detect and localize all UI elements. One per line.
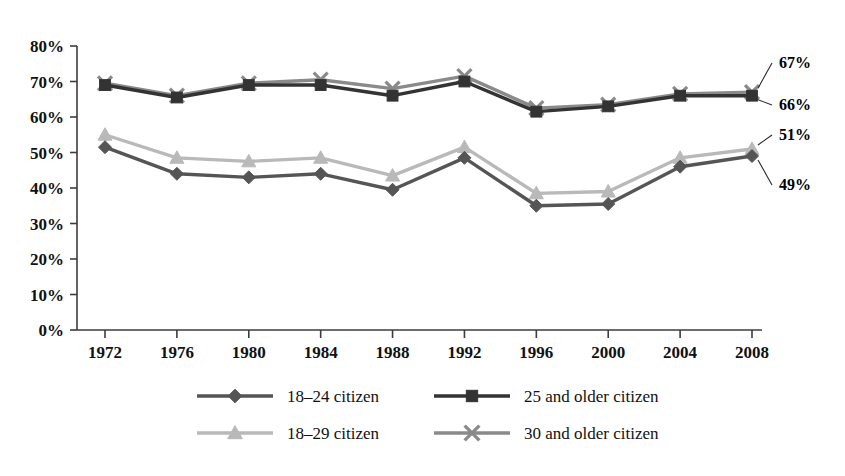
series-end-label: 49% — [779, 176, 811, 193]
series-line — [105, 147, 752, 206]
chart-canvas: 0%10%20%30%40%50%60%70%80% 1972197619801… — [0, 0, 845, 476]
data-point-square — [387, 90, 398, 101]
data-point-diamond — [242, 171, 255, 184]
legend-item-label: 30 and older citizen — [524, 424, 659, 443]
data-point-square — [603, 101, 614, 112]
data-point-diamond — [170, 167, 183, 180]
series-x — [98, 69, 759, 115]
x-axis-tick-label: 1988 — [376, 343, 410, 362]
end-label-leader — [758, 63, 772, 88]
chart-legend: 18–24 citizen25 and older citizen18–29 c… — [197, 387, 659, 443]
series-layer — [98, 69, 759, 212]
data-point-square — [171, 92, 182, 103]
legend-item-square[interactable]: 25 and older citizen — [434, 387, 659, 406]
data-point-diamond — [602, 197, 615, 210]
legend-item-label: 18–24 citizen — [287, 387, 380, 406]
data-point-square — [747, 90, 758, 101]
data-point-diamond — [314, 167, 327, 180]
legend-item-diamond[interactable]: 18–24 citizen — [197, 387, 380, 406]
y-axis-tick-label: 30% — [30, 215, 64, 234]
y-axis-tick-label: 70% — [30, 73, 64, 92]
legend-item-label: 25 and older citizen — [524, 387, 659, 406]
data-point-square — [243, 80, 254, 91]
x-axis: 1972197619801984198819921996200020042008 — [77, 330, 769, 362]
legend-item-label: 18–29 citizen — [287, 424, 380, 443]
series-diamond — [99, 141, 759, 213]
x-axis-tick-label: 2004 — [663, 343, 698, 362]
y-axis: 0%10%20%30%40%50%60%70%80% — [30, 37, 77, 340]
legend-item-x[interactable]: 30 and older citizen — [434, 424, 659, 443]
data-point-square — [675, 90, 686, 101]
data-point-diamond — [228, 389, 242, 403]
end-label-leader — [758, 160, 772, 185]
data-point-triangle — [98, 128, 112, 140]
end-label-leader — [758, 100, 772, 105]
y-axis-tick-label: 40% — [30, 179, 64, 198]
series-end-label: 66% — [779, 96, 811, 113]
x-axis-tick-label: 2008 — [735, 343, 769, 362]
y-axis-tick-label: 20% — [30, 250, 64, 269]
x-axis-tick-label: 1984 — [304, 343, 339, 362]
data-point-diamond — [386, 183, 399, 196]
data-point-square — [315, 80, 326, 91]
x-axis-tick-label: 1992 — [447, 343, 481, 362]
x-axis-tick-label: 1972 — [88, 343, 122, 362]
y-axis-tick-label: 0% — [39, 321, 65, 340]
voter-turnout-line-chart: 0%10%20%30%40%50%60%70%80% 1972197619801… — [0, 0, 845, 476]
data-point-square — [466, 390, 477, 401]
y-axis-tick-label: 10% — [30, 286, 64, 305]
y-axis-tick-label: 50% — [30, 144, 64, 163]
x-axis-tick-label: 1976 — [160, 343, 194, 362]
data-point-square — [459, 76, 470, 87]
legend-item-triangle[interactable]: 18–29 citizen — [197, 424, 380, 443]
end-labels-layer: 67%66%51%49% — [758, 54, 811, 193]
series-triangle — [98, 128, 759, 199]
series-line — [105, 135, 752, 194]
y-axis-tick-label: 80% — [30, 37, 64, 56]
series-end-label: 51% — [779, 126, 811, 143]
data-point-square — [100, 80, 111, 91]
x-axis-tick-label: 1996 — [519, 343, 553, 362]
y-axis-tick-label: 60% — [30, 108, 64, 127]
x-axis-tick-label: 2000 — [591, 343, 625, 362]
end-label-leader — [758, 135, 772, 145]
series-end-label: 67% — [779, 54, 811, 71]
data-point-diamond — [99, 141, 112, 154]
data-point-square — [531, 106, 542, 117]
x-axis-tick-label: 1980 — [232, 343, 266, 362]
